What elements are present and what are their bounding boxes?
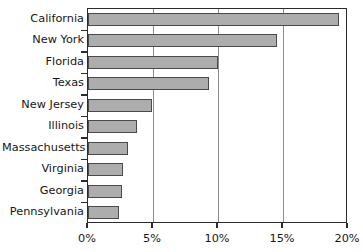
bar-row (88, 74, 346, 96)
category-axis-labels: CaliforniaNew YorkFloridaTexasNew Jersey… (0, 8, 84, 223)
category-tick (81, 94, 87, 96)
bar-row (88, 95, 346, 117)
bar-row (88, 117, 346, 139)
category-label: Pennsylvania (2, 206, 84, 218)
category-label: Georgia (2, 185, 84, 197)
value-axis-tick (281, 223, 283, 228)
category-tick (81, 73, 87, 75)
bar-row (88, 9, 346, 31)
category-tick (81, 116, 87, 118)
category-label: Virginia (2, 163, 84, 175)
bar (88, 185, 122, 198)
category-label: New Jersey (2, 99, 84, 111)
category-label: Illinois (2, 120, 84, 132)
category-label: New York (2, 34, 84, 46)
category-tick (81, 180, 87, 182)
bar-row (88, 181, 346, 203)
value-axis-tick-label: 5% (143, 232, 161, 245)
bar (88, 142, 128, 155)
category-tick (81, 202, 87, 204)
category-tick (81, 30, 87, 32)
category-tick (81, 159, 87, 161)
bar (88, 13, 339, 26)
category-tick (81, 51, 87, 53)
value-axis-tick (346, 223, 348, 228)
bar (88, 56, 218, 69)
bar (88, 99, 152, 112)
bar-row (88, 203, 346, 225)
value-axis-tick (151, 223, 153, 228)
value-axis-tick (216, 223, 218, 228)
plot-area (87, 8, 347, 223)
value-axis-tick-label: 0% (78, 232, 96, 245)
bar (88, 163, 123, 176)
bar (88, 206, 119, 219)
category-label: Massachusetts (2, 142, 84, 154)
value-axis-tick-label: 15% (269, 232, 294, 245)
bar (88, 77, 209, 90)
bar-row (88, 31, 346, 53)
bar-row (88, 52, 346, 74)
bar-chart: CaliforniaNew YorkFloridaTexasNew Jersey… (0, 0, 363, 252)
bar (88, 34, 277, 47)
value-axis-tick (86, 223, 88, 228)
bar-row (88, 160, 346, 182)
bar-row (88, 138, 346, 160)
category-label: Texas (2, 77, 84, 89)
value-axis-tick-label: 10% (204, 232, 229, 245)
category-label: Florida (2, 56, 84, 68)
category-label: California (2, 13, 84, 25)
value-axis-tick-label: 20% (334, 232, 359, 245)
bar (88, 120, 137, 133)
category-tick (81, 137, 87, 139)
